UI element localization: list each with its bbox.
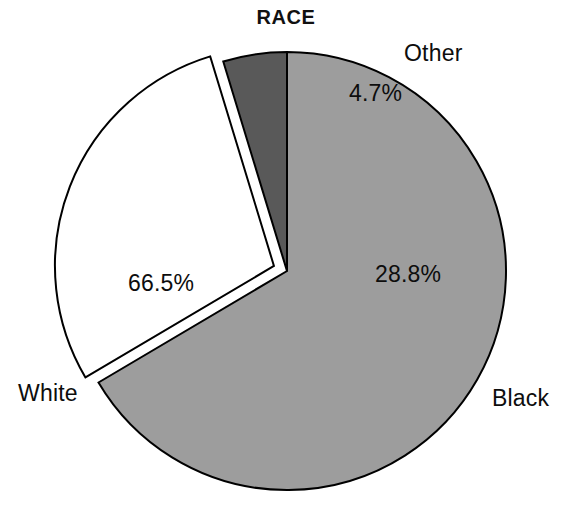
slice-category-label-white: White (18, 380, 78, 407)
slice-value-label-other: 4.7% (349, 80, 402, 107)
slice-value-label-black: 28.8% (375, 261, 441, 288)
slice-value-label-white: 66.5% (128, 270, 194, 297)
pie-chart-figure: RACE 66.5% 28.8% 4.7% White Black Other (0, 0, 572, 529)
slice-category-label-black: Black (492, 385, 549, 412)
pie-chart-svg (0, 0, 572, 529)
slice-category-label-other: Other (404, 40, 463, 67)
